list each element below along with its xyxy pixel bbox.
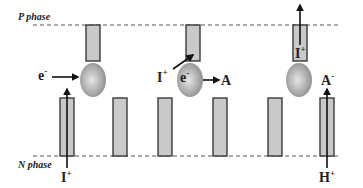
- carrier-ball: [80, 63, 106, 97]
- acceptor-label: A: [221, 73, 232, 88]
- n-phase-label: N phase: [17, 159, 52, 170]
- electron-label: e-: [38, 66, 47, 83]
- lower-channel-left: [158, 98, 172, 156]
- lower-channel-right: [213, 98, 227, 156]
- proton-label: H+: [319, 168, 335, 185]
- panel-2: I+ e- A: [157, 25, 232, 156]
- panel-3: I+ A- H+: [268, 5, 335, 185]
- carrier-ball: [286, 63, 312, 97]
- membrane-transport-diagram: P phase N phase e- I+ I+ e- A I+ A- H+: [0, 0, 363, 188]
- ion-label: I+: [61, 168, 72, 185]
- ion-label: I+: [157, 67, 168, 85]
- lower-channel-left: [268, 98, 282, 156]
- p-phase-label: P phase: [18, 11, 51, 22]
- anion-label: A-: [321, 71, 334, 88]
- upper-channel: [86, 25, 100, 61]
- lower-channel-right: [113, 98, 127, 156]
